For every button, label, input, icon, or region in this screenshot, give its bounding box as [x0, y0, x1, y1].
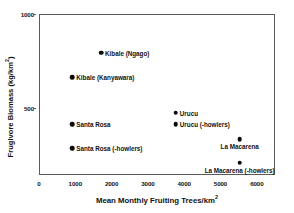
- data-point-label: Kibale (Kanyawara): [76, 74, 134, 81]
- data-point-label: La Macarena: [221, 143, 259, 150]
- data-point-label: Kibale (Ngago): [105, 49, 149, 56]
- data-point-label: Urucu: [180, 109, 198, 116]
- superscript: 2: [215, 194, 218, 200]
- data-point[interactable]: [70, 146, 75, 151]
- data-point[interactable]: [237, 137, 242, 142]
- y-tick-label-1000: 1000: [21, 11, 34, 18]
- data-point[interactable]: [99, 50, 104, 55]
- x-tick-label-1000: 1000: [69, 180, 82, 187]
- x-tick-label-2000: 2000: [105, 180, 118, 187]
- plot-area: Kibale (Ngago)Kibale (Kanyawara)Santa Ro…: [39, 14, 275, 175]
- y-axis-title: Frugivore Biomass (kg/km2): [6, 56, 15, 157]
- data-point[interactable]: [70, 122, 75, 127]
- data-point[interactable]: [173, 122, 178, 127]
- x-tick-label-0: 0: [37, 180, 40, 187]
- scatter-chart-figure: 5001000 Kibale (Ngago)Kibale (Kanyawara)…: [0, 0, 294, 213]
- data-point[interactable]: [70, 75, 75, 80]
- y-tick-mark: [33, 14, 36, 15]
- data-point-label: Santa Rosa (-howlers): [76, 145, 142, 152]
- x-tick-label-4000: 4000: [178, 180, 191, 187]
- x-tick-label-3000: 3000: [141, 180, 154, 187]
- x-axis-title: Mean Monthly Fruiting Trees/km2: [39, 196, 275, 205]
- x-tick-label-6000: 6000: [250, 180, 263, 187]
- data-point-label: La Macarena (-howlers): [205, 167, 275, 174]
- data-point[interactable]: [237, 160, 242, 165]
- x-tick-label-5000: 5000: [214, 180, 227, 187]
- superscript: 2: [4, 59, 10, 62]
- y-tick-mark: [33, 108, 36, 109]
- data-point-label: Urucu (-howlers): [180, 121, 230, 128]
- data-point-label: Santa Rosa: [76, 121, 110, 128]
- data-point[interactable]: [173, 110, 178, 115]
